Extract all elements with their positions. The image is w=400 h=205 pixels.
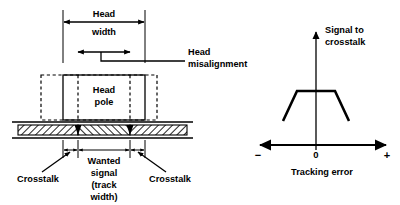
- track-band-center: [78, 125, 130, 135]
- chart-negative-sign-label: −: [255, 149, 261, 161]
- head-pole-label-line1: Head: [93, 85, 115, 95]
- crosstalk-left-label: Crosstalk: [17, 174, 60, 184]
- crosstalk-right-label: Crosstalk: [149, 174, 192, 184]
- head-pole-label-line2: pole: [95, 97, 114, 107]
- chart-y-axis-label-line1: Signal to: [325, 25, 364, 35]
- track-band-right: [130, 125, 187, 135]
- wanted-signal-label-line1: Wanted: [88, 156, 121, 166]
- crosstalk-right-leader: [138, 152, 166, 172]
- chart-y-axis-label-line2: crosstalk: [325, 37, 366, 47]
- diagram-svg: Head width Head misalignment Head pole: [0, 0, 400, 205]
- chart-origin-label: 0: [313, 149, 318, 160]
- chart-x-axis-label: Tracking error: [291, 167, 353, 177]
- wanted-signal-label-line3: (track: [91, 180, 117, 190]
- head-misalignment-label-line1: Head: [188, 47, 210, 57]
- head-misalignment-dimension-arrow: [78, 52, 185, 61]
- head-width-label-line2: width: [91, 27, 116, 37]
- wanted-signal-label-line2: signal: [91, 168, 118, 178]
- chart-positive-sign-label: +: [384, 149, 390, 161]
- track-band-left: [18, 125, 78, 135]
- figure-root: Head width Head misalignment Head pole: [0, 0, 400, 205]
- crosstalk-left-leader: [42, 152, 70, 172]
- wanted-signal-label-line4: width): [89, 192, 117, 202]
- tape-track-strip: [12, 122, 193, 138]
- head-width-label-line1: Head: [93, 9, 115, 19]
- head-misalignment-label-line2: misalignment: [188, 59, 247, 69]
